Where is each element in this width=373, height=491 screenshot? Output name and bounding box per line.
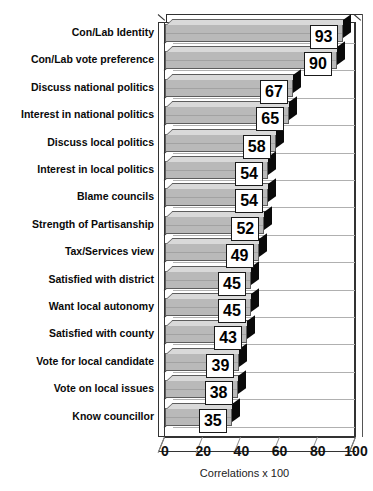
row-gridline [173,262,355,263]
bar-value-label: 54 [235,162,263,186]
plot-left-axis-wall [158,22,165,437]
row-gridline [173,317,355,318]
row-gridline [173,399,355,400]
category-label: Con/Lab Identity [72,27,154,38]
bar-value-label: 43 [214,326,242,350]
category-label-column: Con/Lab IdentityCon/Lab vote preferenceD… [0,14,158,440]
plot-right-edge [355,22,356,437]
category-label: Satisfied with district [48,274,154,285]
category-label: Satisfied with county [49,328,154,339]
category-label: Interest in local politics [37,164,154,175]
row-gridline [173,207,355,208]
bar-value-label: 45 [218,272,246,296]
category-label: Discuss local politics [47,137,154,148]
category-label: Want local autonomy [49,301,154,312]
category-label: Interest in national politics [21,109,154,120]
bar-value-label: 65 [256,107,284,131]
plot-right-back-edge [362,14,363,437]
x-axis-ticks: 020406080100 [158,443,368,461]
chart-title-fragment [122,0,262,6]
x-tick-label: 20 [195,443,211,459]
plot-area [158,14,364,442]
category-label: Know councillor [72,411,154,422]
category-label: Vote on local issues [54,383,154,394]
category-label: Con/Lab vote preference [31,54,154,65]
plot-top-edge [166,14,363,15]
category-label: Strength of Partisanship [32,219,154,230]
x-tick-label: 80 [310,443,326,459]
category-label: Tax/Services view [65,246,154,257]
plot-top-left-slant [158,14,165,21]
row-gridline [173,180,355,181]
x-tick-label: 60 [272,443,288,459]
bar-value-label: 52 [231,217,259,241]
bar-value-label: 38 [205,381,233,405]
category-label: Blame councils [77,191,154,202]
category-label: Discuss national politics [31,82,154,93]
category-label: Vote for local candidate [36,356,154,367]
x-axis-title-text: Correlations x 100 [200,467,289,479]
chart-root: Con/Lab IdentityCon/Lab vote preferenceD… [0,0,373,491]
bar-value-label: 54 [235,189,263,213]
bar-value-label: 90 [304,52,332,76]
plot-floor-top-edge [164,437,355,438]
bar-value-label: 45 [218,299,246,323]
x-tick-label: 40 [234,443,250,459]
bar-value-label: 49 [226,244,254,268]
bar-value-label: 67 [260,80,288,104]
row-gridline [173,344,355,345]
bar-value-label: 39 [206,354,234,378]
x-tick-label: 0 [161,443,169,459]
x-axis-title: Correlations x 100 [0,467,373,479]
bar-value-label: 58 [243,135,271,159]
row-gridline [173,290,355,291]
bar-value-label: 35 [199,409,227,433]
row-gridline [173,372,355,373]
bar-value-label: 93 [310,25,338,49]
x-tick-label: 100 [344,443,367,459]
